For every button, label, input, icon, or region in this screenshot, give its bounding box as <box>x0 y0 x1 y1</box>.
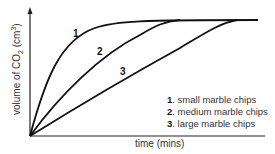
legend: 1. small marble chips 2. medium marble c… <box>167 94 268 130</box>
chart-plot <box>0 0 275 154</box>
curve-2-medium-chips <box>30 20 180 136</box>
legend-item: 1. small marble chips <box>167 94 268 106</box>
legend-item: 3. large marble chips <box>167 118 268 130</box>
x-axis-label: time (mins) <box>135 138 184 149</box>
curve-1-label: 1 <box>73 28 79 39</box>
y-axis-label: volume of CO2 (cm3) <box>10 14 24 124</box>
y-axis-arrow-icon <box>28 7 33 14</box>
legend-item: 2. medium marble chips <box>167 106 268 118</box>
curve-2-label: 2 <box>97 46 103 57</box>
curve-3-label: 3 <box>120 66 126 77</box>
